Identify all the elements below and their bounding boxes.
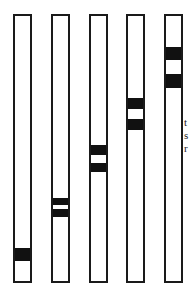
text-fragment-2: s [184, 129, 188, 142]
text-fragment-1: t [184, 116, 187, 129]
band-1 [128, 98, 143, 109]
tube-1 [13, 14, 32, 283]
band-2 [166, 74, 181, 88]
band-2 [128, 119, 143, 130]
band-1 [53, 198, 68, 205]
tube-5 [164, 14, 183, 283]
band-2 [91, 163, 106, 172]
band-2 [53, 209, 68, 217]
band-1 [166, 47, 181, 60]
text-fragment-3: r [184, 142, 188, 155]
tube-2 [51, 14, 70, 283]
band-1 [15, 248, 30, 261]
tube-4 [126, 14, 145, 283]
band-1 [91, 145, 106, 155]
tube-3 [89, 14, 108, 283]
